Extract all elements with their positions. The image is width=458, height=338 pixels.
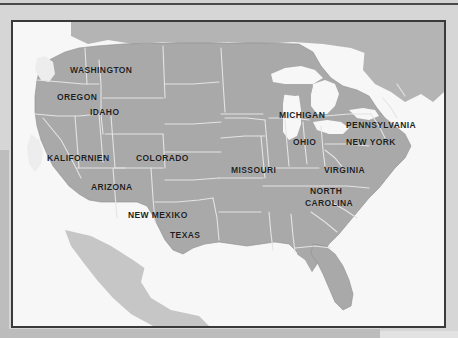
map-label-virginia: VIRGINIA bbox=[324, 165, 365, 175]
map-figure-frame: WASHINGTON OREGON IDAHO KALIFORNIEN COLO… bbox=[11, 20, 446, 328]
map-label-ohio: OHIO bbox=[293, 137, 316, 147]
map-label-pennsylvania: PENNSYLVANIA bbox=[346, 120, 416, 130]
map-label-idaho: IDAHO bbox=[90, 107, 119, 117]
map-label-new-mexiko: NEW MEXIKO bbox=[128, 210, 188, 220]
map-label-kalifornien: KALIFORNIEN bbox=[47, 153, 109, 163]
page-top-rule bbox=[0, 3, 458, 5]
map-label-texas: TEXAS bbox=[170, 230, 200, 240]
page-left-margin-band bbox=[0, 150, 9, 338]
map-label-arizona: ARIZONA bbox=[91, 182, 133, 192]
map-label-oregon: OREGON bbox=[57, 92, 97, 102]
page-bottom-margin-band-light bbox=[380, 331, 458, 338]
map-label-washington: WASHINGTON bbox=[70, 65, 132, 75]
map-label-colorado: COLORADO bbox=[136, 153, 189, 163]
map-label-north-carolina: NORTH bbox=[310, 186, 342, 196]
map-label-north-carolina-line2: CAROLINA bbox=[305, 198, 353, 208]
map-label-missouri: MISSOURI bbox=[231, 165, 276, 175]
map-label-michigan: MICHIGAN bbox=[279, 110, 325, 120]
page-bottom-margin-band bbox=[0, 329, 380, 338]
screenshot-root: WASHINGTON OREGON IDAHO KALIFORNIEN COLO… bbox=[0, 0, 458, 338]
map-label-new-york: NEW YORK bbox=[346, 137, 396, 147]
